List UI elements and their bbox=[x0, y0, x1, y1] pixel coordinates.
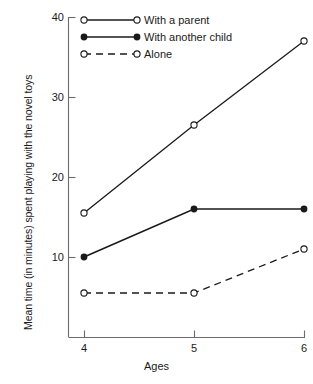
data-point-child-age4 bbox=[81, 254, 88, 261]
legend-item-with-a-parent: With a parent bbox=[144, 14, 209, 26]
x-axis-title: Ages bbox=[0, 360, 313, 372]
data-point-alone-age6 bbox=[301, 246, 307, 252]
y-tick-label-20: 20 bbox=[36, 171, 64, 183]
legend-item-with-another-child: With another child bbox=[144, 31, 232, 43]
legend-swatches bbox=[81, 17, 141, 57]
legend-marker-parent-left bbox=[81, 17, 87, 23]
x-tick-label-5: 5 bbox=[182, 342, 206, 354]
y-tick-label-10: 10 bbox=[36, 251, 64, 263]
x-tick-label-6: 6 bbox=[292, 342, 313, 354]
legend-marker-alone-left bbox=[81, 51, 87, 57]
data-point-child-age5 bbox=[191, 206, 198, 213]
y-tick-label-30: 30 bbox=[36, 91, 64, 103]
series-with-another-child bbox=[81, 206, 308, 261]
data-point-alone-age5 bbox=[191, 290, 197, 296]
legend-item-alone: Alone bbox=[144, 48, 172, 60]
series-alone bbox=[81, 246, 307, 296]
data-point-parent-age6 bbox=[301, 38, 307, 44]
series-with-a-parent bbox=[81, 38, 307, 216]
y-axis-title: Mean time (in minutes) spent playing wit… bbox=[22, 75, 34, 330]
legend-marker-alone-right bbox=[134, 51, 140, 57]
x-tick-label-4: 4 bbox=[72, 342, 96, 354]
chart-figure: 40 30 20 10 4 5 6 Mean time (in minutes)… bbox=[0, 0, 313, 384]
data-point-parent-age5 bbox=[191, 122, 197, 128]
legend-marker-child-right bbox=[134, 34, 141, 41]
data-point-child-age6 bbox=[301, 206, 308, 213]
x-axis bbox=[69, 331, 306, 338]
data-point-parent-age4 bbox=[81, 210, 87, 216]
legend-marker-child-left bbox=[81, 34, 88, 41]
data-point-alone-age4 bbox=[81, 290, 87, 296]
y-tick-label-40: 40 bbox=[36, 11, 64, 23]
y-axis bbox=[69, 17, 76, 337]
legend-marker-parent-right bbox=[134, 17, 140, 23]
